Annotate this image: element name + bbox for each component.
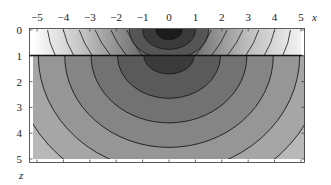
x-tick-label: 2 <box>219 11 225 23</box>
x-tick-label: −5 <box>31 11 43 23</box>
z-tick-labels: 012345 <box>17 24 23 165</box>
x-tick-label: −3 <box>84 11 96 23</box>
bottom-layer <box>13 0 325 185</box>
top-layer <box>33 1 301 59</box>
x-tick-label: −2 <box>110 11 122 23</box>
z-tick-label: 5 <box>17 153 23 165</box>
contour-chart: −5−4−3−2−1012345 012345 x z <box>0 0 331 185</box>
z-axis-label: z <box>18 169 24 181</box>
x-tick-label: 1 <box>193 11 199 23</box>
z-tick-label: 2 <box>17 76 23 88</box>
z-tick-label: 3 <box>17 101 23 113</box>
x-tick-label: 0 <box>166 11 172 23</box>
x-tick-label: 4 <box>272 11 278 23</box>
z-tick-label: 4 <box>17 127 23 139</box>
z-tick-label: 1 <box>17 50 23 62</box>
z-tick-label: 0 <box>17 24 23 36</box>
x-tick-label: −4 <box>58 11 70 23</box>
x-tick-label: 3 <box>245 11 251 23</box>
x-axis-label: x <box>311 11 317 23</box>
x-tick-label: −1 <box>137 11 149 23</box>
x-tick-label: 5 <box>298 11 304 23</box>
x-tick-labels: −5−4−3−2−1012345 <box>31 11 304 23</box>
